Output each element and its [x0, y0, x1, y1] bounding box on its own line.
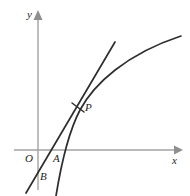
point-label-a: A — [53, 153, 60, 164]
y-axis-label: y — [27, 9, 32, 20]
math-figure: y x O A B P — [0, 0, 190, 196]
x-axis-label: x — [172, 155, 177, 166]
point-label-p: P — [85, 102, 92, 113]
figure-canvas — [0, 0, 190, 196]
point-label-origin: O — [25, 153, 33, 164]
point-label-b: B — [40, 171, 47, 182]
y-axis-arrowhead — [34, 10, 43, 20]
function-curve — [56, 36, 181, 196]
